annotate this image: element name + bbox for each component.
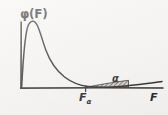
phi-density-curve <box>22 21 162 88</box>
tail-area-alpha-label: α <box>112 74 119 84</box>
x-axis-label: F <box>150 92 158 103</box>
critical-value-label: Fα <box>79 92 91 106</box>
y-axis-label: φ(F) <box>20 8 47 20</box>
figure-container: φ(F) F α Fα <box>0 0 168 115</box>
critical-value-subscript: α <box>87 98 92 106</box>
critical-value-base: F <box>79 91 87 104</box>
